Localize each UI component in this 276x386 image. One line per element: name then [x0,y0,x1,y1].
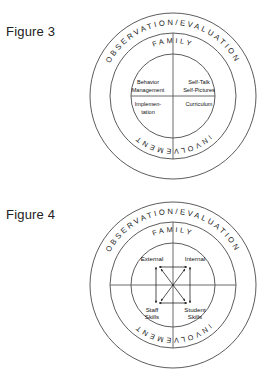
figure-4-quadrant-bottom-left: Staff Skills [145,306,159,320]
svg-text:Curriculum: Curriculum [185,101,212,107]
figure-3-quadrant-bottom-left: Implemen- tation [135,101,162,115]
svg-text:Student: Student [184,306,206,313]
svg-text:tation: tation [141,109,155,115]
svg-text:Self-Pictures: Self-Pictures [183,87,215,93]
svg-text:Staff: Staff [146,306,159,313]
figure-3-quadrant-top-right: Self-Talk Self-Pictures [183,79,215,93]
figure-3-quadrant-top-left: Behavior Management [132,79,165,93]
svg-text:Behavior: Behavior [137,79,159,85]
figure-4-quadrant-bottom-right: Student Skills [184,306,206,320]
svg-text:Skills: Skills [188,313,202,320]
figure-4-diagram: OBSERVATION/EVALUATION FAMILY INVOLVEMEN… [88,197,258,373]
svg-text:Internal: Internal [185,255,206,262]
svg-text:External: External [141,255,164,262]
figure-4-caption: Figure 4 [6,207,55,222]
figure-3-block: Figure 3 OBSERVATION/EVALUATION FAMILY [0,0,276,193]
svg-text:Implemen-: Implemen- [135,101,162,107]
figure-3-diagram: OBSERVATION/EVALUATION FAMILY INVOLVEMEN… [88,8,258,184]
svg-text:Self-Talk: Self-Talk [188,79,210,85]
figure-3-quadrant-bottom-right: Curriculum [185,101,212,107]
svg-text:Management: Management [132,87,165,93]
figure-3-caption: Figure 3 [6,24,55,39]
figure-4-block: Figure 4 OBSERVATION/EVALUATION FAMILY [0,193,276,386]
figure-4-quadrant-top-left: External [141,255,164,262]
figure-4-quadrant-top-right: Internal [185,255,206,262]
svg-text:Skills: Skills [145,313,159,320]
